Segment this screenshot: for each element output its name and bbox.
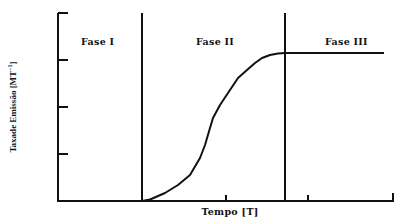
- phase-label-1: Fase I: [81, 36, 114, 47]
- x-ticks: [226, 193, 393, 201]
- emission-curve: [142, 53, 384, 201]
- y-axis-label-text: Taxade Emissão [MT: [8, 71, 18, 153]
- y-axis-label-superscript: −1: [7, 64, 13, 70]
- phase-label-2: Fase II: [196, 36, 234, 47]
- y-ticks: [58, 13, 68, 154]
- y-axis-label: Taxade Emissão [MT−1]: [7, 61, 18, 152]
- phase-label-3: Fase III: [325, 36, 368, 47]
- emission-rate-chart: [0, 0, 406, 221]
- x-axis-label: Tempo [T]: [180, 206, 280, 217]
- y-axis-label-close: ]: [8, 61, 18, 64]
